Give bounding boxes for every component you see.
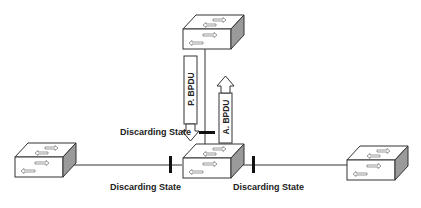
switch-left	[15, 143, 76, 177]
port-marker-left	[169, 156, 172, 173]
port-marker-top	[199, 131, 215, 134]
port-state-top-label: Discarding State	[120, 127, 191, 137]
network-diagram	[0, 0, 421, 208]
up-arrow-icon	[217, 76, 234, 93]
a-bpdu-label: A. BPDU	[221, 92, 231, 142]
switch-top	[183, 15, 244, 49]
switch-center	[183, 144, 244, 178]
port-state-left-label: Discarding State	[110, 182, 181, 192]
switch-right	[347, 146, 408, 180]
port-state-right-label: Discarding State	[233, 182, 304, 192]
port-marker-right	[252, 156, 255, 173]
p-bpdu-label: P. BPDU	[186, 64, 196, 114]
